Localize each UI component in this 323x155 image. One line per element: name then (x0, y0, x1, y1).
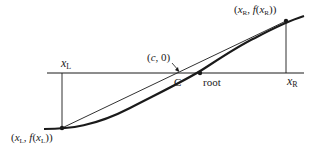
c-arrowhead-icon (175, 67, 179, 72)
right-endpoint-dot (284, 19, 288, 23)
left-point-label: (xL, f(xL)) (11, 131, 53, 145)
xL-label: xL (60, 56, 71, 71)
secant-line (62, 21, 286, 128)
left-endpoint-dot (60, 126, 64, 130)
false-position-diagram: xL xR (c, 0) C root (xL, f(xL)) (xR, f(x… (0, 0, 323, 155)
c-marker-label: C (174, 76, 181, 88)
c-point-label: (c, 0) (147, 51, 171, 64)
root-label: root (203, 76, 221, 88)
right-point-label: (xR, f(xR)) (234, 3, 277, 17)
root-dot (198, 71, 202, 75)
xR-label: xR (286, 74, 298, 89)
